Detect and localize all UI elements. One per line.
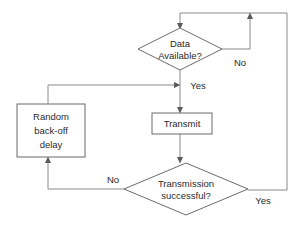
node-backoff-line1: Random — [33, 111, 69, 122]
node-transmission-line1: Transmission — [158, 178, 214, 189]
label-data-available-yes: Yes — [190, 80, 206, 91]
node-backoff-line2: back-off — [34, 125, 68, 136]
node-transmission-line2: successful? — [161, 190, 211, 201]
node-data-available-line2: Available? — [158, 50, 202, 61]
label-data-available-no: No — [234, 57, 246, 68]
node-transmit-label: Transmit — [164, 118, 201, 129]
label-transmission-no: No — [107, 174, 119, 185]
label-transmission-yes: Yes — [255, 195, 271, 206]
flowchart-svg: Data Available? Transmit Random back-off… — [0, 0, 303, 231]
node-data-available-line1: Data — [170, 38, 191, 49]
arrowhead-decision-top — [177, 157, 183, 164]
flowchart-canvas: Data Available? Transmit Random back-off… — [0, 0, 303, 231]
node-backoff-line3: delay — [40, 139, 63, 150]
